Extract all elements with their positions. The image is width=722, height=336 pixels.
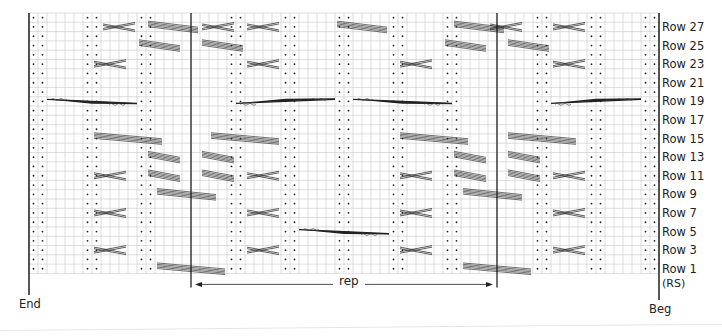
row-label: Row 5 — [662, 226, 697, 238]
row-label: Row 7 — [662, 207, 697, 219]
row-label: Row 3 — [662, 244, 697, 256]
rep-label: rep — [333, 274, 365, 288]
row-label: Row 23 — [662, 58, 704, 70]
row-label: Row 1 — [662, 263, 697, 275]
row-label: Row 17 — [662, 114, 704, 126]
row-label: Row 15 — [662, 133, 704, 145]
row-label: Row 11 — [662, 170, 704, 182]
row-label: Row 9 — [662, 188, 697, 200]
row-label: Row 25 — [662, 40, 704, 52]
row-label: Row 19 — [662, 95, 704, 107]
row-label: Row 13 — [662, 151, 704, 163]
end-label: End — [19, 297, 41, 311]
row-label: Row 21 — [662, 77, 704, 89]
row-label: Row 27 — [662, 21, 704, 33]
rs-label: (RS) — [662, 277, 685, 290]
beg-label: Beg — [649, 302, 671, 316]
